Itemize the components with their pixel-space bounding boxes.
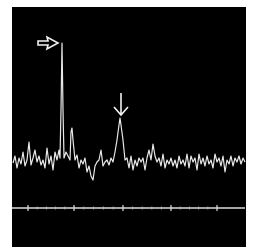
spectrum-chart: [0, 0, 257, 251]
plot-area: [12, 7, 246, 247]
